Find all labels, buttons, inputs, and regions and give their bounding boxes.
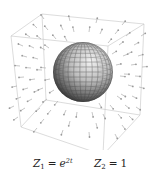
field-arrow-head xyxy=(131,51,133,53)
z2-value: 1 xyxy=(121,157,128,169)
field-arrow-head xyxy=(36,69,38,71)
field-arrow-head xyxy=(21,55,23,57)
field-arrow-head xyxy=(27,100,29,102)
field-arrow-head xyxy=(72,26,74,28)
caption-z2: Z2=1 xyxy=(94,157,127,171)
field-arrow-head xyxy=(138,42,140,44)
field-arrow-head xyxy=(124,76,126,78)
caption: Z1=e2t Z2=1 xyxy=(0,155,152,175)
field-arrow-head xyxy=(11,86,13,88)
field-arrow-head xyxy=(68,15,70,17)
field-arrow-head xyxy=(18,77,20,79)
field-arrow-head xyxy=(32,24,34,26)
field-arrow-head xyxy=(15,98,17,100)
field-arrow-head xyxy=(60,25,62,27)
field-arrow-head xyxy=(47,113,49,115)
field-arrow-head xyxy=(33,91,35,93)
field-arrow-head xyxy=(142,54,144,56)
field-arrow-head xyxy=(116,138,118,140)
field-arrow-head xyxy=(42,101,44,103)
field-arrow-head xyxy=(44,25,46,27)
field-arrow-head xyxy=(128,107,130,109)
field-arrow-head xyxy=(40,14,42,16)
field-arrow-head xyxy=(29,79,31,81)
field-arrow-head xyxy=(104,118,106,120)
field-arrow-head xyxy=(112,108,114,110)
z2-subscript: 2 xyxy=(101,163,105,171)
field-arrow-head xyxy=(18,43,20,45)
field-arrow-head xyxy=(144,32,146,34)
field-arrow-head xyxy=(33,131,35,133)
field-arrow-head xyxy=(120,117,122,119)
field-arrow-head xyxy=(120,63,122,65)
field-arrow-head xyxy=(143,87,145,89)
field-arrow-head xyxy=(68,125,70,127)
field-arrow-head xyxy=(63,114,65,116)
field-arrow-head xyxy=(54,104,56,106)
field-arrow-head xyxy=(124,96,126,98)
field-arrow-head xyxy=(100,107,102,109)
field-arrow-head xyxy=(60,134,62,136)
z1-exponent: 2t xyxy=(66,157,73,165)
sphere xyxy=(53,42,113,102)
field-arrow-head xyxy=(29,45,31,47)
field-arrow-head xyxy=(40,122,42,124)
field-arrow-head xyxy=(22,88,24,90)
field-arrow-head xyxy=(89,136,91,138)
field-arrow-head xyxy=(25,33,27,35)
field-arrow-head xyxy=(32,57,34,59)
field-arrow-head xyxy=(146,66,148,68)
field-arrow-head xyxy=(20,110,22,112)
field-arrow-head xyxy=(117,29,119,31)
z1-subscript: 1 xyxy=(40,163,44,171)
field-arrow-head xyxy=(115,50,117,52)
field-arrow-head xyxy=(75,116,77,118)
field-arrow-head xyxy=(120,98,122,100)
field-arrow-head xyxy=(9,107,11,109)
field-arrow-head xyxy=(139,75,141,77)
field-arrow-head xyxy=(14,65,16,67)
field-arrow-head xyxy=(36,35,38,37)
z2-relation: = xyxy=(109,157,118,169)
field-arrow-head xyxy=(44,79,46,81)
field-arrow-head xyxy=(122,41,124,43)
field-arrow-head xyxy=(92,116,94,118)
caption-z1: Z1=e2t xyxy=(33,157,73,171)
field-arrow-head xyxy=(139,109,141,111)
field-arrow-head xyxy=(49,92,51,94)
field-arrow-head xyxy=(96,17,98,19)
vector-field-figure xyxy=(0,0,152,150)
field-arrow-head xyxy=(44,44,46,46)
field-arrow-head xyxy=(35,110,37,112)
field-arrow-head xyxy=(110,38,112,40)
field-arrow-head xyxy=(25,67,27,69)
field-arrow-head xyxy=(124,128,126,130)
field-arrow-head xyxy=(40,67,42,69)
field-arrow-head xyxy=(64,36,66,38)
field-arrow-head xyxy=(136,97,138,99)
field-arrow-head xyxy=(13,119,15,121)
field-arrow-head xyxy=(135,63,137,65)
field-arrow-head xyxy=(96,127,98,129)
field-arrow-head xyxy=(52,34,54,36)
field-arrow-head xyxy=(40,47,42,49)
field-arrow-head xyxy=(132,119,134,121)
field-arrow-head xyxy=(37,89,39,91)
field-arrow-head xyxy=(124,20,126,22)
field-arrow-head xyxy=(129,32,131,34)
field-arrow-head xyxy=(101,29,103,31)
field-arrow-head xyxy=(89,26,91,28)
field-arrow-head xyxy=(132,85,134,87)
field-arrow-head xyxy=(128,73,130,75)
z1-relation: = xyxy=(48,157,57,169)
